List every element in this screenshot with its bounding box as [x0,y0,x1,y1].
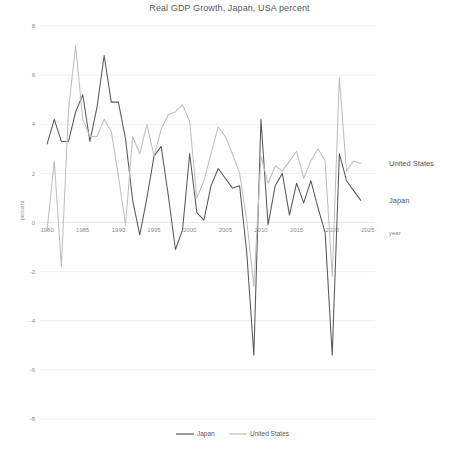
y-tick-label: 6 [32,72,36,78]
legend-label-united-states: United States [250,430,290,437]
y-tick-label: 4 [32,121,36,127]
y-axis-title: percent [19,200,25,220]
series-end-label-japan: Japan [389,196,409,205]
y-tick-label: -2 [30,269,36,275]
y-tick-label: -6 [30,367,36,373]
y-tick-label: -4 [30,318,36,324]
x-tick-label: 1985 [76,227,90,233]
gridlines [40,26,375,419]
series-line-japan [47,55,361,355]
series-end-label-united-states: United States [389,159,434,168]
y-tick-label: -8 [30,416,36,422]
chart-container: Real GDP Growth, Japan, USA percent 8642… [0,0,459,449]
x-tick-label: 1995 [147,227,161,233]
y-axis-tick-labels: 86420-2-4-6-8 [30,23,36,422]
chart-legend: JapanUnited States [176,430,290,438]
y-tick-label: 0 [32,220,36,226]
y-tick-label: 8 [32,23,36,29]
x-tick-label: 1990 [112,227,126,233]
chart-plot: 86420-2-4-6-8 19801985199019952000200520… [0,0,459,449]
x-tick-label: 2025 [361,227,375,233]
x-tick-label: 2005 [219,227,233,233]
x-tick-label: 2020 [326,227,340,233]
series-line-united-states [47,46,361,287]
series-end-labels: United StatesJapan [389,159,434,205]
x-tick-label: 2000 [183,227,197,233]
y-tick-label: 2 [32,171,36,177]
legend-label-japan: Japan [197,430,215,438]
x-tick-label: 2015 [290,227,304,233]
x-axis-title: year [389,230,401,236]
data-series [47,46,361,355]
